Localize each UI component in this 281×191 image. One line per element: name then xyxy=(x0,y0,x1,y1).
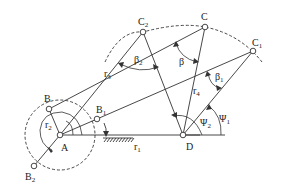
coupler-bc xyxy=(49,27,205,109)
coupler-b2c2 xyxy=(60,32,143,135)
label-b2: B2 xyxy=(25,171,36,184)
label-psi2: Ψ2 xyxy=(200,117,211,130)
joint-a xyxy=(57,132,63,138)
rocker-dc2 xyxy=(143,32,183,135)
joint-c1 xyxy=(250,48,256,54)
joint-c xyxy=(202,24,208,30)
angle-arc-crank-a2 xyxy=(66,121,73,135)
joint-c2 xyxy=(140,29,146,35)
joint-d xyxy=(180,132,186,138)
label-beta1: β1 xyxy=(215,71,224,84)
coupler-b1c1 xyxy=(97,51,253,119)
label-beta: β xyxy=(179,56,184,67)
joint-b xyxy=(46,106,52,112)
joint-b2 xyxy=(31,163,37,169)
label-b: B xyxy=(44,93,51,104)
four-bar-linkage-diagram: A D B B1 B2 C C1 C2 r1 r2 r3 r4 β β1 β2 … xyxy=(0,0,281,191)
label-beta2: β2 xyxy=(134,54,143,67)
angle-arc-psi2 xyxy=(173,115,202,135)
label-d: D xyxy=(186,141,193,152)
label-r4: r4 xyxy=(193,85,200,98)
label-a: A xyxy=(61,142,69,153)
crank-ab1 xyxy=(60,119,97,135)
crank-ab2 xyxy=(34,135,60,166)
joint-b1 xyxy=(94,116,100,122)
label-c: C xyxy=(201,11,208,22)
label-r2: r2 xyxy=(45,119,52,132)
label-psi1: Ψ1 xyxy=(219,113,230,126)
label-c2: C2 xyxy=(138,16,149,29)
ground-hatch xyxy=(103,138,134,142)
label-b1: B1 xyxy=(96,104,107,117)
label-r1: r1 xyxy=(134,141,141,154)
